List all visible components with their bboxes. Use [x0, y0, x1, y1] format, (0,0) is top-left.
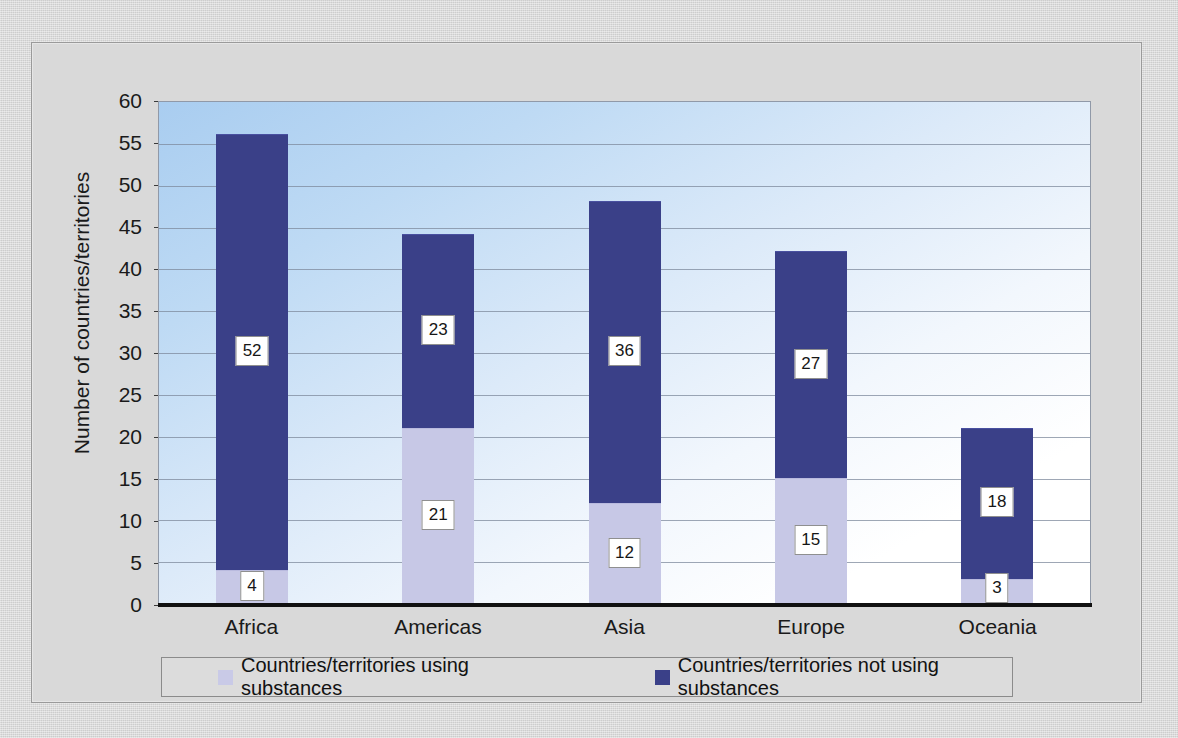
x-tick-label-americas: Americas — [348, 615, 528, 639]
x-axis-line — [158, 603, 1092, 607]
y-tick-label: 25 — [82, 383, 152, 407]
y-tick-label: 0 — [82, 593, 152, 617]
y-tick-label: 60 — [82, 89, 152, 113]
y-tick-label: 50 — [82, 173, 152, 197]
bars-layer: 452212312361527318 — [159, 102, 1090, 604]
x-tick-label-africa: Africa — [161, 615, 341, 639]
data-label-using-substances: 21 — [422, 500, 455, 530]
y-tick-label: 30 — [82, 341, 152, 365]
stacked-bar-chart: Number of countries/territories 60 55 50… — [32, 43, 1141, 702]
y-tick-label: 5 — [82, 551, 152, 575]
y-axis-ticks: 60 55 50 45 40 35 30 25 20 15 10 5 0 — [82, 101, 152, 605]
data-label-not-using-substances: 27 — [794, 349, 827, 379]
data-label-not-using-substances: 18 — [980, 487, 1013, 517]
data-label-using-substances: 15 — [794, 525, 827, 555]
x-tick-label-oceania: Oceania — [908, 615, 1088, 639]
legend-label: Countries/territories not using substanc… — [678, 654, 1012, 700]
y-tick-label: 55 — [82, 131, 152, 155]
bar-group-asia[interactable]: 1236 — [589, 100, 661, 604]
plot-area: 452212312361527318 — [158, 101, 1091, 605]
y-tick-label: 45 — [82, 215, 152, 239]
y-tick-label: 15 — [82, 467, 152, 491]
bar-group-oceania[interactable]: 318 — [961, 100, 1033, 604]
legend-swatch-icon-light — [218, 670, 233, 685]
bar-group-africa[interactable]: 452 — [216, 100, 288, 604]
y-tick-label: 40 — [82, 257, 152, 281]
data-label-using-substances: 12 — [608, 538, 641, 568]
y-tick-label: 10 — [82, 509, 152, 533]
x-tick-label-europe: Europe — [721, 615, 901, 639]
legend-item-not-using-substances[interactable]: Countries/territories not using substanc… — [655, 654, 1012, 700]
figure-frame: Number of countries/territories 60 55 50… — [31, 42, 1142, 703]
x-axis-labels: Africa Americas Asia Europe Oceania — [158, 615, 1091, 649]
data-label-not-using-substances: 36 — [608, 336, 641, 366]
data-label-using-substances: 3 — [985, 573, 1008, 603]
legend-swatch-icon-dark — [655, 670, 670, 685]
data-label-not-using-substances: 23 — [422, 315, 455, 345]
x-tick-label-asia: Asia — [535, 615, 715, 639]
y-tick-label: 35 — [82, 299, 152, 323]
legend-label: Countries/territories using substances — [241, 654, 545, 700]
legend-item-using-substances[interactable]: Countries/territories using substances — [218, 654, 545, 700]
chart-legend: Countries/territories using substances C… — [161, 657, 1013, 697]
y-tick-label: 20 — [82, 425, 152, 449]
bar-group-europe[interactable]: 1527 — [775, 100, 847, 604]
data-label-using-substances: 4 — [240, 571, 263, 601]
data-label-not-using-substances: 52 — [236, 336, 269, 366]
bar-group-americas[interactable]: 2123 — [402, 100, 474, 604]
